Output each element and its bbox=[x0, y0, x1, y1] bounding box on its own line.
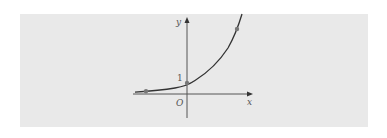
x-axis-label: x bbox=[247, 97, 252, 107]
point-left bbox=[144, 89, 148, 93]
y-tick-label-1: 1 bbox=[177, 73, 183, 83]
y-axis-arrow-icon bbox=[185, 17, 190, 23]
exponential-graph: y x O 1 bbox=[0, 0, 387, 138]
exponential-curve bbox=[135, 14, 242, 92]
origin-label: O bbox=[176, 98, 184, 108]
point-y-intercept bbox=[185, 81, 189, 85]
x-axis-arrow-icon bbox=[247, 92, 253, 97]
y-axis-label: y bbox=[175, 17, 182, 27]
point-upper bbox=[235, 27, 239, 31]
